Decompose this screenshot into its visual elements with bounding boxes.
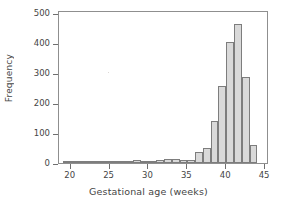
- histogram-bar: [156, 160, 164, 163]
- histogram-bar: [133, 160, 141, 163]
- histogram-bar: [250, 145, 258, 163]
- histogram-bar: [234, 24, 242, 163]
- histogram-bar: [141, 161, 149, 163]
- x-axis-tick-label: 45: [253, 170, 275, 180]
- y-axis-tick-label: 300: [34, 69, 50, 78]
- x-axis-tick-mark: [264, 164, 265, 169]
- x-axis: 202530354045 Gestational age (weeks): [0, 164, 297, 207]
- x-axis-tick-label: 20: [59, 170, 81, 180]
- histogram-bar: [211, 121, 219, 163]
- x-axis-tick-mark: [70, 164, 71, 169]
- histogram-bars: [59, 12, 267, 163]
- x-axis-tick-mark: [147, 164, 148, 169]
- histogram-bar: [78, 161, 86, 163]
- y-axis-tick-label: 400: [34, 39, 50, 48]
- plot-area: [58, 11, 268, 164]
- y-axis-tick-label: 100: [34, 129, 50, 138]
- histogram-figure: Frequency 0100200300400500 202530354045 …: [0, 0, 297, 207]
- x-axis-tick-mark: [109, 164, 110, 169]
- histogram-bar: [187, 160, 195, 163]
- histogram-bar: [117, 161, 125, 163]
- x-axis-title: Gestational age (weeks): [0, 186, 297, 197]
- histogram-bar: [172, 159, 180, 163]
- histogram-bar: [63, 161, 71, 163]
- y-axis-title: Frequency: [4, 54, 15, 102]
- histogram-bar: [71, 161, 79, 163]
- y-axis-tick-label: 500: [34, 9, 50, 18]
- x-axis-tick-label: 40: [214, 170, 236, 180]
- scan-speck: [108, 72, 109, 73]
- histogram-bar: [110, 161, 118, 163]
- histogram-bar: [94, 161, 102, 163]
- x-axis-tick-label: 35: [175, 170, 197, 180]
- x-axis-tick-mark: [225, 164, 226, 169]
- histogram-bar: [242, 77, 250, 163]
- histogram-bar: [226, 42, 234, 163]
- histogram-bar: [218, 86, 226, 163]
- histogram-bar: [164, 159, 172, 163]
- histogram-bar: [86, 161, 94, 163]
- histogram-bar: [195, 152, 203, 163]
- y-axis-tick-label: 200: [34, 99, 50, 108]
- histogram-bar: [102, 161, 110, 163]
- x-axis-tick-label: 30: [136, 170, 158, 180]
- x-axis-tick-label: 25: [98, 170, 120, 180]
- histogram-bar: [148, 161, 156, 163]
- histogram-bar: [180, 160, 188, 163]
- x-axis-tick-mark: [186, 164, 187, 169]
- histogram-bar: [125, 161, 133, 163]
- histogram-bar: [203, 148, 211, 163]
